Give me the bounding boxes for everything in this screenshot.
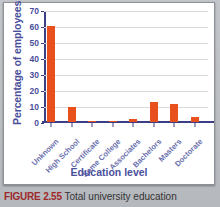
figure-caption-text: Total university education	[64, 191, 176, 202]
x-tick-mark	[133, 123, 134, 127]
figure-caption: FIGURE 2.55 Total university education	[4, 191, 218, 202]
bar	[191, 117, 199, 122]
gridline	[44, 27, 208, 28]
bar	[170, 104, 178, 122]
y-tick-mark	[41, 43, 44, 44]
y-tick-label: 50	[30, 38, 39, 48]
x-tick-mark	[112, 123, 113, 127]
gridline	[44, 59, 208, 60]
y-tick-label: 70	[30, 6, 39, 16]
y-tick-label: 10	[30, 102, 39, 112]
y-tick-label: 40	[30, 54, 39, 64]
figure-number: FIGURE 2.55	[4, 191, 62, 202]
x-tick-mark	[194, 123, 195, 127]
x-tick-mark	[92, 123, 93, 127]
x-tick-mark	[71, 123, 72, 127]
bar	[109, 121, 117, 122]
y-tick-label: 60	[30, 22, 39, 32]
plot-area: 010203040506070 UnknownHigh SchoolCertif…	[44, 11, 208, 123]
y-tick-mark	[41, 123, 44, 124]
y-tick-mark	[41, 27, 44, 28]
y-tick-mark	[41, 107, 44, 108]
y-tick-label: 30	[30, 70, 39, 80]
bar	[88, 121, 96, 122]
y-tick-mark	[41, 91, 44, 92]
x-tick-mark	[153, 123, 154, 127]
bar	[129, 119, 137, 122]
gridline	[44, 11, 208, 12]
gridline	[44, 43, 208, 44]
gridline	[44, 91, 208, 92]
bar	[68, 107, 76, 122]
bar	[47, 26, 55, 122]
chart-panel: Percentage of employees 010203040506070 …	[3, 2, 215, 185]
y-tick-mark	[41, 11, 44, 12]
y-tick-mark	[41, 75, 44, 76]
y-axis-title: Percentage of employees	[11, 5, 23, 125]
bar	[150, 102, 158, 122]
x-tick-mark	[174, 123, 175, 127]
y-tick-mark	[41, 59, 44, 60]
figure-container: Percentage of employees 010203040506070 …	[0, 0, 220, 207]
gridline	[44, 75, 208, 76]
x-tick-mark	[51, 123, 52, 127]
y-tick-label: 0	[34, 118, 39, 128]
y-tick-label: 20	[30, 86, 39, 96]
x-axis-title: Education level	[4, 166, 214, 178]
